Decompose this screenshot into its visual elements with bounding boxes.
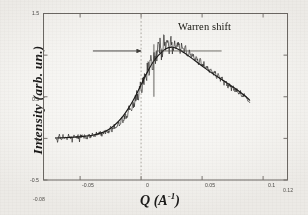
axis-ticks bbox=[44, 14, 288, 181]
scientific-figure: Intensity (arb. un.) Q (A-1) 1.5 1 0.5 0… bbox=[0, 0, 308, 215]
plot-canvas bbox=[0, 0, 308, 215]
fit-curve bbox=[56, 47, 250, 138]
plot-frame bbox=[44, 14, 288, 181]
